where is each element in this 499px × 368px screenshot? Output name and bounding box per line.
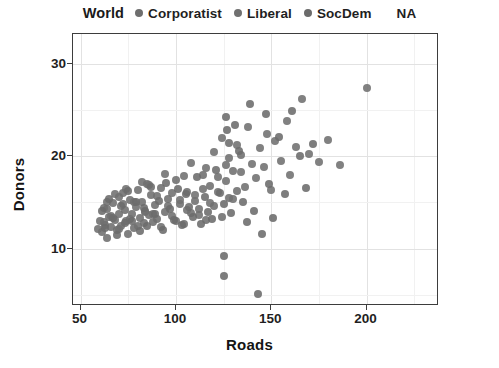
gridline-vertical xyxy=(414,34,415,304)
data-point xyxy=(222,177,230,185)
data-point xyxy=(233,187,241,195)
x-axis-tick-label: 200 xyxy=(354,311,377,326)
legend-item-na[interactable]: NA xyxy=(384,6,417,21)
data-point xyxy=(220,252,228,260)
data-point xyxy=(277,157,285,165)
gridline-vertical xyxy=(271,34,272,304)
data-point xyxy=(223,126,231,134)
legend-label-corporatist: Corporatist xyxy=(148,6,222,21)
data-point xyxy=(128,217,136,225)
data-point xyxy=(124,187,132,195)
x-axis-tick xyxy=(175,305,176,310)
data-point xyxy=(140,204,148,212)
gridline-horizontal xyxy=(73,64,437,65)
data-point xyxy=(281,190,289,198)
x-axis-tick-label: 50 xyxy=(72,311,87,326)
data-point xyxy=(305,150,313,158)
x-axis-tick-label: 100 xyxy=(164,311,187,326)
y-axis-tick xyxy=(67,63,72,64)
data-point xyxy=(260,163,268,171)
data-point xyxy=(162,179,170,187)
data-point xyxy=(235,147,243,155)
data-point xyxy=(222,113,230,121)
data-point xyxy=(218,213,226,221)
data-point xyxy=(178,221,186,229)
legend-key-liberal xyxy=(234,9,242,17)
legend-title: World xyxy=(83,5,124,21)
data-point xyxy=(250,207,258,215)
legend-item-socdem[interactable]: SocDem xyxy=(304,6,372,21)
data-point xyxy=(262,110,270,118)
data-point xyxy=(212,166,220,174)
y-axis-tick xyxy=(67,248,72,249)
data-point xyxy=(136,227,144,235)
data-point xyxy=(199,185,207,193)
data-point xyxy=(248,160,256,168)
gridline-vertical xyxy=(176,34,177,304)
data-point xyxy=(288,107,296,115)
data-point xyxy=(258,230,266,238)
data-point xyxy=(172,176,180,184)
data-point xyxy=(143,222,151,230)
data-point xyxy=(298,95,306,103)
x-axis-tick xyxy=(270,305,271,310)
legend-item-corporatist[interactable]: Corporatist xyxy=(135,6,222,21)
data-point xyxy=(147,183,155,191)
gridline-horizontal xyxy=(73,249,437,250)
y-axis-title-text: Donors xyxy=(11,157,28,211)
data-point xyxy=(182,190,190,198)
data-point xyxy=(208,215,216,223)
data-point xyxy=(161,170,169,178)
gridline-vertical xyxy=(81,34,82,304)
data-point xyxy=(336,161,344,169)
data-point xyxy=(214,173,222,181)
legend-label-socdem: SocDem xyxy=(317,6,372,21)
data-point xyxy=(324,136,332,144)
data-point xyxy=(117,202,125,210)
data-point xyxy=(225,139,233,147)
gridline-vertical xyxy=(224,34,225,304)
legend-key-corporatist xyxy=(135,9,143,17)
gridline-vertical xyxy=(128,34,129,304)
gridline-vertical xyxy=(319,34,320,304)
data-point xyxy=(229,167,237,175)
data-point xyxy=(237,168,245,176)
legend-key-socdem xyxy=(304,9,312,17)
legend: World Corporatist Liberal SocDem NA xyxy=(0,2,499,24)
data-point xyxy=(180,172,188,180)
legend-label-na: NA xyxy=(397,6,417,21)
data-point xyxy=(254,290,262,298)
x-axis-title: Roads xyxy=(0,336,499,353)
legend-key-na xyxy=(384,9,392,17)
data-point xyxy=(283,117,291,125)
data-point xyxy=(189,213,197,221)
data-point xyxy=(225,154,233,162)
data-point xyxy=(227,209,235,217)
data-point xyxy=(256,144,264,152)
data-point xyxy=(220,272,228,280)
data-point xyxy=(269,214,277,222)
plot-area xyxy=(73,34,437,304)
scatter-plot-figure: World Corporatist Liberal SocDem NA Dono… xyxy=(0,0,499,368)
x-axis-tick xyxy=(80,305,81,310)
data-point xyxy=(101,224,109,232)
y-axis-tick xyxy=(67,155,72,156)
data-point xyxy=(286,171,294,179)
data-point xyxy=(244,123,252,131)
data-point xyxy=(302,184,310,192)
y-axis-tick-label: 10 xyxy=(32,240,66,255)
data-point xyxy=(239,198,247,206)
data-point xyxy=(263,130,271,138)
data-point xyxy=(246,100,254,108)
y-axis-tick-label: 30 xyxy=(32,55,66,70)
legend-item-liberal[interactable]: Liberal xyxy=(234,6,292,21)
legend-label-liberal: Liberal xyxy=(247,6,292,21)
x-axis-tick-label: 150 xyxy=(259,311,282,326)
data-point xyxy=(98,207,106,215)
gridline-horizontal xyxy=(73,110,437,111)
data-point xyxy=(193,173,201,181)
data-point xyxy=(275,133,283,141)
data-point xyxy=(105,195,113,203)
gridline-horizontal xyxy=(73,156,437,157)
gridline-vertical xyxy=(367,34,368,304)
